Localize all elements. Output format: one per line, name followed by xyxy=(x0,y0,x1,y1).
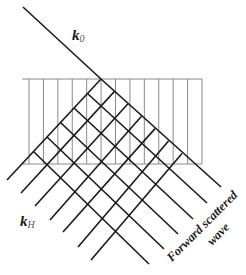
kH-label: kH xyxy=(20,213,36,230)
diffracted-wave-line xyxy=(63,129,155,232)
forward-wave-line xyxy=(34,152,150,265)
diffracted-wave-line xyxy=(35,104,128,206)
k0-label: k0 xyxy=(72,27,85,44)
diffracted-wave-line xyxy=(91,153,182,260)
borrmann-fan-diagram: k0 kH Forward scattered wave xyxy=(0,0,246,275)
diffracted-wave-line xyxy=(50,116,142,220)
diffracted-wave-line xyxy=(21,91,115,193)
diffracted-lines-kH xyxy=(7,79,182,260)
diffracted-wave-line xyxy=(78,141,169,247)
forward-wave-line xyxy=(88,94,208,204)
forward-wave-line xyxy=(47,137,164,249)
forward-wave-line xyxy=(101,79,221,187)
incident-beam-k0 xyxy=(23,7,101,79)
